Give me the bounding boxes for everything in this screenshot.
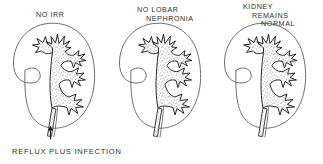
- panel-label-1-line-1: NO IRR: [36, 11, 64, 20]
- panel-label-3: KIDNEY REMAINS NORMAL: [243, 3, 295, 29]
- figure-caption: REFLUX PLUS INFECTION: [12, 147, 122, 156]
- kidney-panel-2: [120, 23, 201, 137]
- kidney-panel-3: [225, 23, 306, 137]
- panel-label-3-line-3: NORMAL: [243, 20, 295, 29]
- kidney-panel-1: [14, 23, 95, 139]
- kidney-outline-icon: [120, 23, 201, 137]
- kidney-outline-icon: [14, 23, 95, 137]
- panel-label-1: NO IRR: [36, 11, 64, 20]
- panel-label-2-line-2: NEPHRONIA: [137, 15, 194, 24]
- kidney-reflux-figure: NO IRR NO LOBAR NEPHRONIA KIDNEY REMAINS…: [0, 0, 323, 164]
- kidney-outline-icon: [225, 23, 306, 137]
- panel-label-2: NO LOBAR NEPHRONIA: [137, 6, 194, 23]
